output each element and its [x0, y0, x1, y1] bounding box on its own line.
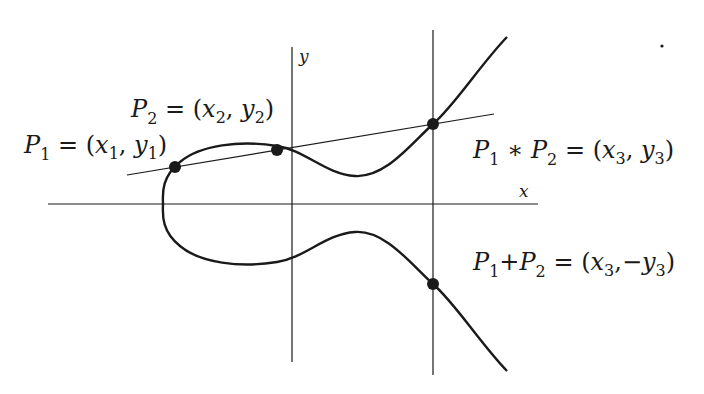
y-axis-label: y	[298, 46, 309, 66]
secant-line	[127, 114, 494, 175]
label-p1: P1 = (x1, y1)	[23, 131, 167, 164]
point-p1-star-p2	[427, 118, 439, 130]
label-p1-plus-p2: P1+P2 = (x3,−y3)	[472, 248, 675, 281]
label-p1-star-p2: P1 ∗ P2 = (x3, y3)	[472, 136, 674, 169]
stray-mark	[660, 44, 663, 47]
point-p1-plus-p2	[427, 278, 439, 290]
point-p1	[169, 161, 181, 173]
point-p2	[271, 144, 283, 156]
x-axis-label: x	[519, 181, 529, 201]
label-p2: P2 = (x2, y2)	[130, 95, 274, 128]
elliptic-curve-diagram: y x P2 = (x2, y2) P1 = (x1, y1) P1 ∗ P2 …	[0, 0, 704, 394]
